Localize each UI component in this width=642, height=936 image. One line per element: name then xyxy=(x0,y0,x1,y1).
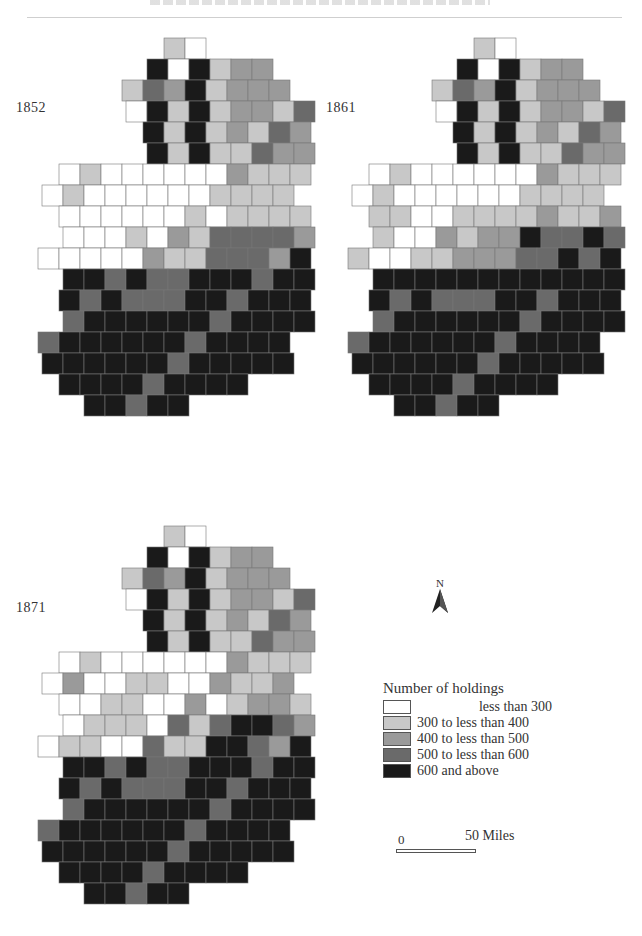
legend-item: 400 to less than 500 xyxy=(383,731,552,747)
scale-bar-graphic xyxy=(396,849,476,853)
scale-start-label: 0 xyxy=(398,832,405,848)
map-year-label: 1871 xyxy=(16,600,46,616)
legend-item: 500 to less than 600 xyxy=(383,747,552,763)
legend-swatch xyxy=(383,732,411,746)
legend-item: 600 and above xyxy=(383,763,552,779)
legend-title: Number of holdings xyxy=(383,680,552,697)
legend-swatch xyxy=(383,700,411,714)
map-1871: 1871 xyxy=(28,518,328,918)
legend-item: 300 to less than 400 xyxy=(383,715,552,731)
map-year-label: 1861 xyxy=(326,100,356,116)
legend-label: 600 and above xyxy=(417,763,552,779)
legend-label: 500 to less than 600 xyxy=(417,747,552,763)
running-title-clipped xyxy=(150,0,490,5)
map-year-label: 1852 xyxy=(16,100,46,116)
map-1861: 1861 xyxy=(338,30,638,430)
north-label: N xyxy=(430,578,450,589)
legend: Number of holdings less than 300300 to l… xyxy=(383,680,552,779)
legend-item: less than 300 xyxy=(383,699,552,715)
legend-swatch xyxy=(383,764,411,778)
legend-label: 400 to less than 500 xyxy=(417,731,552,747)
legend-swatch xyxy=(383,748,411,762)
map-1852: 1852 xyxy=(28,30,328,430)
header-rule xyxy=(27,17,622,18)
north-arrow: N xyxy=(430,578,450,617)
legend-swatch xyxy=(383,716,411,730)
north-arrow-icon xyxy=(430,589,450,613)
legend-label: less than 300 xyxy=(417,699,552,715)
scale-end-label: 50 Miles xyxy=(465,828,514,844)
legend-label: 300 to less than 400 xyxy=(417,715,552,731)
